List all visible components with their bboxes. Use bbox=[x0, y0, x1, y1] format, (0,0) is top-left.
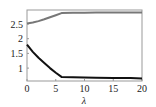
y-axis: 11.522.5 bbox=[11, 19, 30, 74]
x-tick-label: 0 bbox=[25, 83, 30, 94]
x-tick-label: 10 bbox=[80, 83, 90, 94]
y-tick-label: 1.5 bbox=[11, 48, 24, 59]
y-tick-label: 1 bbox=[18, 63, 23, 74]
y-tick-label: 2.5 bbox=[11, 19, 24, 30]
x-tick-label: 15 bbox=[108, 83, 118, 94]
plot-area bbox=[27, 10, 142, 81]
x-axis-label: λ bbox=[81, 95, 87, 106]
x-tick-label: 20 bbox=[137, 83, 147, 94]
x-tick-label: 5 bbox=[53, 83, 58, 94]
y-tick-label: 2 bbox=[18, 33, 23, 44]
line-chart: 11.522.5 05101520 λ bbox=[0, 0, 156, 107]
